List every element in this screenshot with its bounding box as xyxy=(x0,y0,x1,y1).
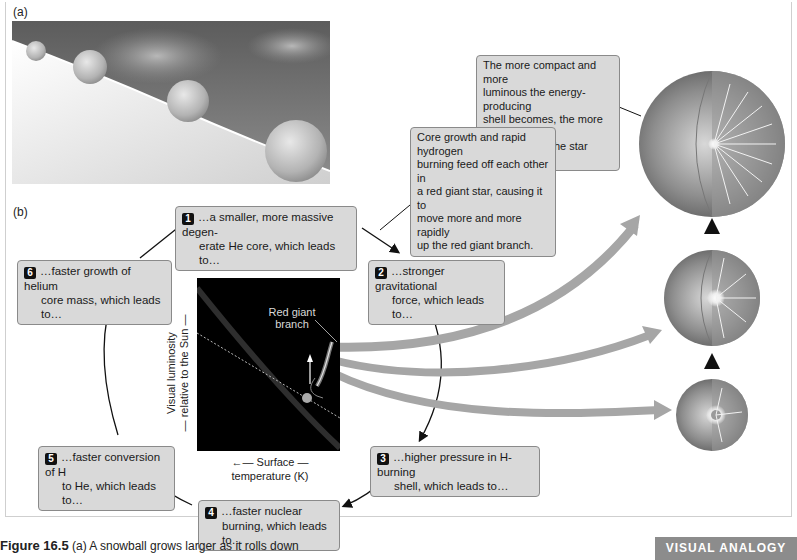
step-number-badge: 3 xyxy=(377,453,389,465)
large-star-icon xyxy=(639,71,785,217)
step-number-badge: 6 xyxy=(24,267,36,279)
medium-star-icon xyxy=(664,250,760,346)
callout-line: up the red giant branch. xyxy=(417,239,549,253)
step-text-line2: core mass, which leads to… xyxy=(24,293,165,321)
caption-text: (a) A snowball grows larger as it rolls … xyxy=(72,539,299,553)
callout-line: burning feed off each other in xyxy=(417,158,549,185)
arrow-1-to-2 xyxy=(362,228,398,252)
cycle-step-2: 2…stronger gravitational force, which le… xyxy=(368,260,505,325)
hr-diagram-plot: Red giant branch xyxy=(197,278,340,451)
cycle-step-3: 3…higher pressure in H-burning shell, wh… xyxy=(370,446,540,497)
y-axis-line1: Visual luminosity xyxy=(165,332,177,414)
callout-line: The more compact and more xyxy=(483,59,613,86)
callout-line: Core growth and rapid hydrogen xyxy=(417,131,549,158)
step-number-badge: 2 xyxy=(375,267,387,279)
step-text-line1: …faster nuclear xyxy=(221,505,302,517)
visual-analogy-badge: VISUAL ANALOGY xyxy=(655,537,797,560)
step-text-line2: to He, which leads to… xyxy=(45,479,168,507)
red-giant-branch-label: Red giant branch xyxy=(257,306,327,330)
step-text-line1: …faster conversion of H xyxy=(45,451,160,478)
step-number-badge: 5 xyxy=(45,453,57,465)
small-star-icon xyxy=(676,379,748,451)
step-text-line2: erate He core, which leads to… xyxy=(182,239,350,267)
step-text-line1: …a smaller, more massive degen- xyxy=(182,211,333,238)
hr-diagram-graphic xyxy=(197,278,340,451)
step-text-line2: shell, which leads to… xyxy=(377,479,533,493)
callout-line: move more and more rapidly xyxy=(417,212,549,239)
x-axis-line2: temperature (K) xyxy=(231,470,308,482)
figure-number: Figure 16.5 xyxy=(0,538,69,553)
step-number-badge: 1 xyxy=(182,213,194,225)
callout-line: a red giant star, causing it to xyxy=(417,185,549,212)
y-axis-line2: — relative to the Sun — xyxy=(178,315,190,432)
figure-caption: Figure 16.5 (a) A snowball grows larger … xyxy=(0,538,299,553)
step-text-line1: …faster growth of helium xyxy=(24,265,131,292)
cycle-step-6: 6…faster growth of helium core mass, whi… xyxy=(17,260,172,325)
callout-line: luminous the energy-producing xyxy=(483,86,613,113)
big-arrow-to-medium-star xyxy=(333,335,650,372)
step-text-line2: force, which leads to… xyxy=(375,293,498,321)
leader-shell xyxy=(619,107,641,116)
branch-label-line2: branch xyxy=(275,318,309,330)
cycle-step-1: 1…a smaller, more massive degen- erate H… xyxy=(175,206,357,271)
big-arrow-to-small-star xyxy=(333,373,660,413)
callout-core-growth: Core growth and rapid hydrogen burning f… xyxy=(410,127,556,257)
cycle-step-5: 5…faster conversion of H to He, which le… xyxy=(38,446,175,511)
x-axis-line1: ←— Surface — xyxy=(231,456,308,468)
branch-label-line1: Red giant xyxy=(268,306,315,318)
step-number-badge: 4 xyxy=(205,507,217,519)
step-text-line1: …higher pressure in H-burning xyxy=(377,451,512,478)
x-axis-label: ←— Surface — temperature (K) xyxy=(200,455,340,483)
